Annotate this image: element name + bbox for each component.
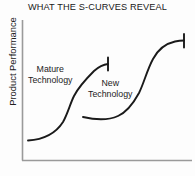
annotation-mature-technology: Mature Technology [28, 64, 73, 85]
annotation-mature-line2: Technology [28, 75, 73, 86]
annotation-mature-line1: Mature [28, 64, 73, 75]
s-curve-chart-figure: WHAT THE S-CURVES REVEAL Product Perform… [0, 0, 195, 176]
annotation-new-technology: New Technology [88, 78, 133, 99]
annotation-new-line2: Technology [88, 89, 133, 100]
annotation-new-line1: New [88, 78, 133, 89]
